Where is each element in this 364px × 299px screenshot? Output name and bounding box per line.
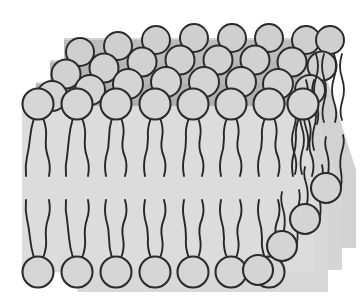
- lipid-head-front-upper-3: [101, 89, 132, 120]
- lipid-head-front-upper-1: [23, 89, 54, 120]
- lipid-head-front-lower-2: [62, 257, 93, 288]
- lipid-head-front-upper-7: [254, 89, 285, 120]
- lipid-head-front-upper-4: [140, 89, 171, 120]
- lipid-head-front-upper-8: [288, 89, 319, 120]
- lipid-head-front-lower-3: [101, 257, 132, 288]
- lipid-head-stair-3: [267, 231, 297, 261]
- lipid-head-stair-2: [290, 204, 320, 234]
- lipid-head-front-upper-5: [178, 89, 209, 120]
- lipid-head-front-lower-5: [178, 257, 209, 288]
- lipid-head-front-upper-2: [62, 89, 93, 120]
- lipid-head-stair-1: [311, 173, 341, 203]
- lipid-bilayer-figure: Lipid bilayer membrane Three-dimensional…: [0, 0, 364, 299]
- lipid-head-front-lower-1: [23, 257, 54, 288]
- lipid-head-stair-4: [243, 255, 273, 285]
- lipid-head-front-lower-4: [140, 257, 171, 288]
- bilayer-diagram-svg: Lipid bilayer membrane Three-dimensional…: [0, 0, 364, 299]
- lipid-head-front-upper-6: [216, 89, 247, 120]
- lipid-head-front-lower-6: [216, 257, 247, 288]
- lipid-head-back4-8: [316, 26, 344, 54]
